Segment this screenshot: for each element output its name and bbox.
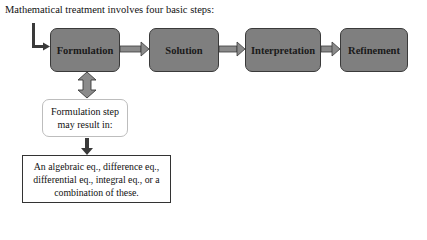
step-solution: Solution (149, 28, 219, 72)
result-text: An algebraic eq., difference eq., differ… (26, 160, 167, 199)
formulation-note-text: Formulation step may result in: (43, 105, 127, 131)
down-arrow-icon (81, 138, 93, 155)
step-interpretation: Interpretation (245, 28, 321, 72)
arrow-interpretation-to-refinement-icon (321, 42, 340, 56)
step-formulation: Formulation (50, 28, 120, 72)
formulation-note-box: Formulation step may result in: (42, 99, 128, 137)
arrow-solution-to-interpretation-icon (219, 42, 245, 56)
step-refinement: Refinement (340, 28, 408, 72)
double-arrow-icon (78, 72, 96, 98)
entry-arrow-icon (32, 23, 50, 51)
arrow-formulation-to-solution-icon (120, 42, 149, 56)
result-box: An algebraic eq., difference eq., differ… (22, 155, 171, 203)
